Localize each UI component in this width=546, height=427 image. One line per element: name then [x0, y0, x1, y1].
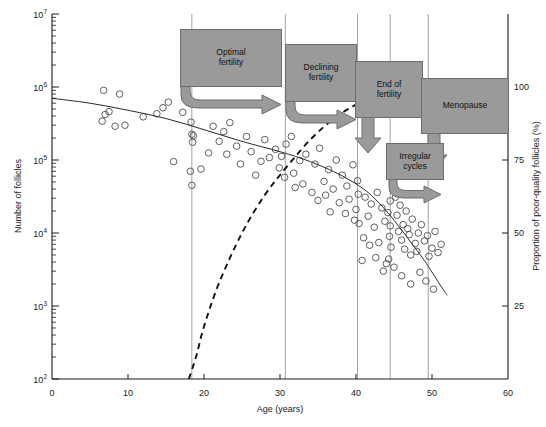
annotation-optimal-fertility-line2: fertility	[216, 58, 245, 68]
x-axis-title: Age (years)	[257, 405, 304, 414]
x-tick-label-10: 10	[123, 389, 133, 398]
x-tick-label-50: 50	[427, 389, 437, 398]
annotation-end-of-fertility: End of fertility	[355, 61, 423, 118]
y2-tick-label-50: 50	[514, 229, 524, 238]
y-axis-title: Number of follicles	[14, 159, 23, 233]
follicle-age-chart: Optimal fertility Declining fertility En…	[0, 0, 546, 427]
y-tick-label-10⁴: 104	[33, 228, 47, 239]
y-tick-label-10³: 103	[33, 301, 47, 312]
x-tick-label-30: 30	[275, 389, 285, 398]
annotation-irregular-cycles: Irregular cycles	[386, 143, 444, 180]
y2-tick-label-75: 75	[514, 156, 524, 165]
y-tick-label-10⁶: 106	[33, 82, 47, 93]
annotation-irregular-cycles-line2: cycles	[399, 162, 431, 172]
annotation-end-of-fertility-line2: fertility	[377, 90, 402, 100]
annotation-declining-fertility-line2: fertility	[304, 73, 339, 83]
x-tick-label-20: 20	[199, 389, 209, 398]
annotation-optimal-fertility: Optimal fertility	[180, 29, 282, 87]
annotation-menopause: Menopause	[421, 78, 509, 134]
y-tick-label-10⁵: 105	[33, 155, 47, 166]
x-tick-label-40: 40	[351, 389, 361, 398]
y2-tick-label-25: 25	[514, 302, 524, 311]
y2-axis-title: Proportion of poor-quality follicles (%)	[532, 121, 541, 271]
x-tick-label-60: 60	[503, 389, 513, 398]
annotation-menopause-line1: Menopause	[443, 101, 487, 111]
y2-tick-label-100: 100	[514, 83, 529, 92]
annotation-declining-fertility: Declining fertility	[285, 44, 357, 102]
y-tick-label-10⁷: 107	[33, 9, 47, 20]
x-tick-label-0: 0	[49, 389, 54, 398]
y-tick-label-10²: 102	[33, 374, 47, 385]
